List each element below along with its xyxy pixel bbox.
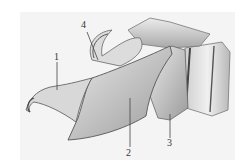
label-3: 3 <box>167 138 172 148</box>
right-segment <box>185 42 230 116</box>
label-2: 2 <box>126 148 131 158</box>
illustration <box>0 0 248 166</box>
label-1: 1 <box>54 52 59 62</box>
anatomical-figure: 1 4 2 3 <box>0 0 248 166</box>
label-4: 4 <box>81 20 86 30</box>
